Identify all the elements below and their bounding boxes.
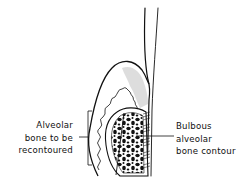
label-bulbous-alveolar-bone-contour: Bulbous alveolar bone contour: [176, 120, 236, 158]
label-left-line-2: bone to be: [19, 132, 73, 145]
bulbous-alveolar-bone: [105, 108, 148, 176]
label-right-line-3: bone contour: [176, 145, 236, 158]
label-alveolar-bone-to-be-recontoured: Alveolar bone to be recontoured: [19, 119, 73, 157]
label-right-line-2: alveolar: [176, 133, 236, 146]
label-right-line-1: Bulbous: [176, 120, 236, 133]
label-left-line-1: Alveolar: [19, 119, 73, 132]
label-left-line-3: recontoured: [19, 144, 73, 157]
